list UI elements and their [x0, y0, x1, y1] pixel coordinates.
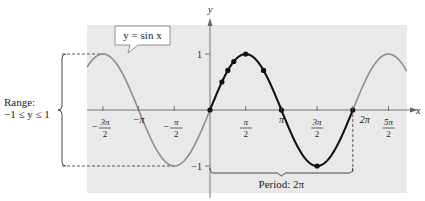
x-tick-label-denominator: 2 [243, 129, 248, 139]
x-tick-label-denominator: 2 [174, 129, 179, 139]
sine-graph: Range:−1 ≤ y ≤ 1 xy −3π2−π−π2π2π3π22π5π2… [0, 0, 425, 201]
key-point [243, 51, 248, 56]
y-tick-label: −1 [191, 161, 202, 172]
x-tick-label-numerator: π [243, 117, 248, 127]
x-tick-label-denominator: 2 [315, 129, 320, 139]
key-point [231, 59, 236, 64]
y-tick-label: 1 [197, 49, 202, 60]
key-point [219, 79, 224, 84]
key-point [225, 68, 230, 73]
range-title: Range: [4, 96, 35, 108]
x-tick-label-numerator: 5π [384, 117, 394, 127]
x-tick-label: −π [133, 114, 146, 125]
x-tick-label-numerator: π [174, 117, 179, 127]
x-tick-label-denominator: 2 [103, 129, 108, 139]
range-brace [58, 54, 66, 166]
y-axis-label: y [207, 4, 213, 15]
x-tick-label-numerator: 3π [99, 117, 110, 127]
x-tick-label: 2π [360, 114, 371, 125]
x-axis-label: x [415, 105, 421, 116]
y-axis-arrow-icon [208, 18, 213, 26]
key-point [207, 107, 212, 112]
x-tick-label-sign: − [92, 121, 98, 132]
key-point [261, 68, 266, 73]
plot-background [87, 25, 407, 193]
period-label: Period: 2π [259, 178, 305, 190]
key-point [315, 163, 320, 168]
x-tick-label-denominator: 2 [386, 129, 391, 139]
x-tick-label-sign: − [163, 121, 169, 132]
function-label: y = sin x [123, 29, 162, 41]
range-value: −1 ≤ y ≤ 1 [4, 108, 50, 120]
x-tick-label-numerator: 3π [312, 117, 323, 127]
